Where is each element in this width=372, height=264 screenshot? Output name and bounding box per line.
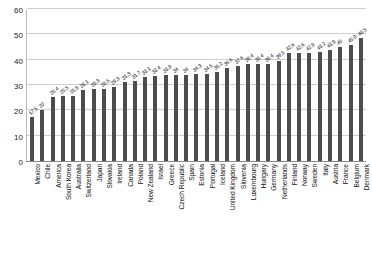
x-label-slot: Belgium	[345, 164, 355, 262]
bar-value-label: 20	[38, 101, 46, 109]
bar[interactable]	[174, 75, 178, 161]
bar[interactable]	[318, 52, 322, 161]
bar[interactable]	[277, 61, 281, 161]
bar[interactable]	[194, 74, 198, 161]
bar-slot: 34	[181, 10, 191, 161]
x-label-slot: Portugal	[202, 164, 212, 262]
bar[interactable]	[133, 81, 137, 161]
bar-slot: 34	[171, 10, 181, 161]
bar[interactable]	[40, 110, 44, 161]
bar-slot: 38.4	[253, 10, 263, 161]
bar-value-label: 34	[171, 66, 179, 74]
bar-slot: 28.1	[78, 10, 88, 161]
y-axis-tick-label: 0	[1, 158, 23, 167]
bar[interactable]	[205, 74, 209, 161]
bar-slot: 25.5	[58, 10, 68, 161]
x-label-slot: Ireland	[109, 164, 119, 262]
x-label-slot: Austria	[325, 164, 335, 262]
bar[interactable]	[256, 64, 260, 161]
x-label-slot: Slovenia	[232, 164, 242, 262]
x-axis-labels: MexicoChileAmericaSouth KoreaAustraliaSw…	[27, 164, 366, 262]
bar-slot: 20	[37, 10, 47, 161]
bar[interactable]	[349, 45, 353, 161]
x-label-slot: Mexico	[27, 164, 37, 262]
bar[interactable]	[61, 96, 65, 161]
bar[interactable]	[266, 64, 270, 161]
bar-slot: 48.5	[356, 10, 366, 161]
bar[interactable]	[225, 68, 229, 161]
x-label-slot: Finland	[284, 164, 294, 262]
bar-slot: 34.3	[191, 10, 201, 161]
x-label-slot: Hungary	[253, 164, 263, 262]
bar-value-label: 45	[336, 38, 344, 46]
bar[interactable]	[297, 53, 301, 161]
bar-slot: 34.5	[202, 10, 212, 161]
x-label-slot: Estonia	[191, 164, 201, 262]
gridline	[27, 8, 366, 9]
bar-slot: 28.3	[89, 10, 99, 161]
bar-slot: 42.6	[284, 10, 294, 161]
bar[interactable]	[328, 50, 332, 161]
bar[interactable]	[81, 90, 85, 161]
bar[interactable]	[123, 82, 127, 161]
bar[interactable]	[71, 96, 75, 161]
bar[interactable]	[102, 89, 106, 161]
bar-slot: 33.4	[150, 10, 160, 161]
x-label-slot: Poland	[130, 164, 140, 262]
bar-slot: 33.1	[140, 10, 150, 161]
x-axis-category-label: Denmark	[363, 164, 370, 190]
x-label-slot: Australia	[68, 164, 78, 262]
bar[interactable]	[164, 75, 168, 161]
x-label-slot: Luxembourg	[243, 164, 253, 262]
y-axis-tick-label: 20	[1, 107, 23, 116]
bar-slot: 39.5	[274, 10, 284, 161]
bar-slot: 25.4	[48, 10, 58, 161]
x-label-slot: United Kingdom	[222, 164, 232, 262]
bar-slot: 38.4	[243, 10, 253, 161]
x-label-slot: France	[335, 164, 345, 262]
bar-slot: 42.6	[294, 10, 304, 161]
x-label-slot: Sweden	[304, 164, 314, 262]
x-label-slot: Iceland	[212, 164, 222, 262]
bar-slot: 31.7	[130, 10, 140, 161]
bar[interactable]	[30, 117, 34, 161]
x-label-slot: New Zealand	[140, 164, 150, 262]
bar-slot: 45	[335, 10, 345, 161]
bar[interactable]	[143, 77, 147, 161]
x-label-slot: South Korea	[58, 164, 68, 262]
bar[interactable]	[153, 76, 157, 161]
x-label-slot: Chile	[37, 164, 47, 262]
bar-value-label: 34	[182, 66, 190, 74]
bars-layer: 17.52025.425.525.828.128.328.529.331.331…	[27, 10, 366, 161]
bar[interactable]	[51, 97, 55, 161]
bar[interactable]	[92, 89, 96, 161]
bar-slot: 43.2	[315, 10, 325, 161]
bar[interactable]	[246, 64, 250, 161]
bar-slot: 35.2	[212, 10, 222, 161]
bar[interactable]	[338, 47, 342, 161]
bar[interactable]	[287, 53, 291, 161]
y-axis-tick-label: 50	[1, 31, 23, 40]
x-label-slot: Italy	[315, 164, 325, 262]
bar-slot: 42.8	[304, 10, 314, 161]
bar-slot: 37.6	[232, 10, 242, 161]
x-label-slot: Slovakia	[99, 164, 109, 262]
bar[interactable]	[184, 75, 188, 161]
x-label-slot: Switzerland	[78, 164, 88, 262]
x-label-slot: Czech Republic	[171, 164, 181, 262]
bar[interactable]	[215, 72, 219, 161]
bar-slot: 28.5	[99, 10, 109, 161]
bar-slot: 38.4	[263, 10, 273, 161]
y-axis-tick-label: 10	[1, 133, 23, 142]
x-label-slot: Canada	[119, 164, 129, 262]
bar-slot: 25.8	[68, 10, 78, 161]
bar-slot: 29.3	[109, 10, 119, 161]
bar[interactable]	[359, 38, 363, 161]
y-axis-tick-label: 30	[1, 82, 23, 91]
x-label-slot: Japan	[89, 164, 99, 262]
bar[interactable]	[112, 87, 116, 161]
bar[interactable]	[236, 66, 240, 161]
bar[interactable]	[307, 53, 311, 161]
bar-slot: 43.8	[325, 10, 335, 161]
x-label-slot: Israel	[150, 164, 160, 262]
